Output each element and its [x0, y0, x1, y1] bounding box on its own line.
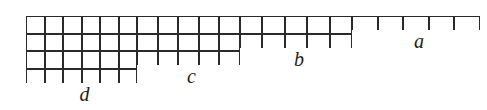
grid-cell-ellipsis [82, 51, 101, 69]
grid-cell [45, 34, 64, 52]
grid-row [137, 16, 240, 34]
grid-cell-ellipsis [82, 34, 101, 52]
grid-cell-ellipsis [199, 16, 220, 34]
measure-label-c: c [137, 65, 246, 87]
grid-cell [219, 34, 240, 52]
grid-row [26, 34, 137, 52]
measure-arrow-d: d [26, 86, 137, 108]
grid-cell-ellipsis [82, 16, 101, 34]
grid-cell [119, 16, 138, 34]
grid-cell [26, 16, 45, 34]
measure-arrow-c: c [137, 68, 240, 90]
segment-b [240, 16, 352, 51]
grid-cell [63, 51, 82, 69]
grid-cell [219, 16, 240, 34]
grid-row [26, 51, 137, 69]
grid-row [137, 34, 240, 52]
grid-row [240, 16, 352, 34]
grid-row [26, 16, 137, 34]
grid-cell [240, 16, 262, 34]
measure-label-b: b [240, 48, 358, 70]
grid-cell [100, 51, 119, 69]
grid-cell [262, 16, 284, 34]
grid-cell [178, 34, 199, 52]
grid-cell-ellipsis [307, 16, 329, 34]
grid-cell [100, 34, 119, 52]
grid-cell [26, 51, 45, 69]
grid-cell [330, 16, 352, 34]
grid-cell-ellipsis [199, 34, 220, 52]
measure-label-d: d [26, 83, 143, 105]
segment-c [137, 16, 240, 69]
grid-cell [158, 34, 179, 52]
grid-cell [119, 34, 138, 52]
grid-cell [137, 34, 158, 52]
grid-cell [26, 34, 45, 52]
measure-label-a: a [352, 30, 486, 52]
grid-cell [285, 16, 307, 34]
segment-d [26, 16, 137, 86]
grid-cell [63, 34, 82, 52]
staircase-diagram: d c b a [0, 0, 487, 110]
grid-cell [119, 51, 138, 69]
grid-cell [45, 16, 64, 34]
measure-arrow-a: a [352, 33, 480, 55]
grid-cell [137, 16, 158, 34]
grid-cell [63, 16, 82, 34]
grid-cell [100, 16, 119, 34]
grid-cell [158, 16, 179, 34]
grid-cell [178, 16, 199, 34]
measure-arrow-b: b [240, 51, 352, 73]
grid-cell [45, 51, 64, 69]
